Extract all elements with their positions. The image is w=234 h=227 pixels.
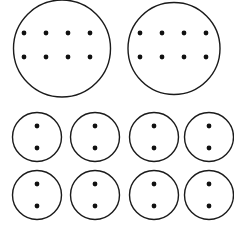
large-circle-2-outline — [128, 3, 220, 95]
small-circle-8-outline — [185, 171, 234, 220]
small-circle-3-dot-2 — [152, 146, 157, 151]
small-circle-5-outline — [13, 171, 62, 220]
diagram-canvas — [0, 0, 234, 227]
small-circle-2 — [71, 113, 120, 162]
small-circle-3-dot-1 — [152, 124, 157, 129]
small-circle-7-dot-2 — [152, 204, 157, 209]
small-circle-1-dot-1 — [35, 124, 40, 129]
small-circle-6-dot-2 — [93, 204, 98, 209]
small-circle-7-dot-1 — [152, 182, 157, 187]
small-circle-8-dot-1 — [207, 182, 212, 187]
large-circle-1-dot-1 — [22, 31, 27, 36]
small-circle-7-outline — [130, 171, 179, 220]
small-circle-4-dot-1 — [207, 124, 212, 129]
large-circle-1-dot-3 — [66, 31, 71, 36]
small-circle-8 — [185, 171, 234, 220]
large-circle-2-dot-8 — [204, 55, 209, 60]
large-circle-2-dot-7 — [182, 55, 187, 60]
large-circle-2 — [128, 3, 220, 95]
small-circle-1-dot-2 — [35, 146, 40, 151]
small-circle-6-dot-1 — [93, 182, 98, 187]
small-circle-3 — [130, 113, 179, 162]
large-circle-1-dot-4 — [88, 31, 93, 36]
large-circle-1-outline — [14, 0, 111, 97]
small-circle-4 — [185, 113, 234, 162]
dot-circles-figure — [0, 0, 234, 227]
large-circle-1-dot-2 — [44, 31, 49, 36]
small-circle-8-dot-2 — [207, 204, 212, 209]
small-circle-2-outline — [71, 113, 120, 162]
small-circle-7 — [130, 171, 179, 220]
small-circle-5-dot-1 — [35, 182, 40, 187]
small-circle-3-outline — [130, 113, 179, 162]
large-circle-2-dot-4 — [204, 31, 209, 36]
large-circle-1-dot-8 — [88, 55, 93, 60]
small-circle-2-dot-1 — [93, 124, 98, 129]
small-circle-6 — [71, 171, 120, 220]
large-circle-2-dot-6 — [160, 55, 165, 60]
large-circle-1-dot-6 — [44, 55, 49, 60]
large-circle-2-dot-3 — [182, 31, 187, 36]
small-circle-4-dot-2 — [207, 146, 212, 151]
small-circle-1 — [13, 113, 62, 162]
small-circle-6-outline — [71, 171, 120, 220]
small-circle-5-dot-2 — [35, 204, 40, 209]
large-circle-2-dot-5 — [138, 55, 143, 60]
large-circle-2-dot-1 — [138, 31, 143, 36]
small-circle-2-dot-2 — [93, 146, 98, 151]
large-circle-2-dot-2 — [160, 31, 165, 36]
small-circle-4-outline — [185, 113, 234, 162]
small-circle-1-outline — [13, 113, 62, 162]
small-circle-5 — [13, 171, 62, 220]
large-circle-1 — [14, 0, 111, 97]
large-circle-1-dot-7 — [66, 55, 71, 60]
large-circle-1-dot-5 — [22, 55, 27, 60]
